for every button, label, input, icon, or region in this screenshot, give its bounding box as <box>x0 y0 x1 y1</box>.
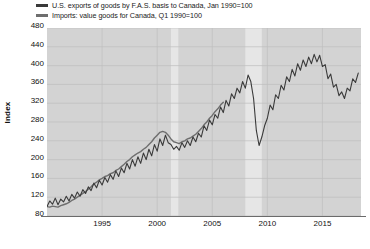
x-axis-line <box>41 216 366 217</box>
plot-area <box>47 28 361 216</box>
y-tick-label: 120 <box>14 191 44 199</box>
x-tick-label: 2005 <box>203 219 221 229</box>
legend-item-exports: U.S. exports of goods by F.A.S. basis to… <box>36 1 366 10</box>
legend-label-exports: U.S. exports of goods by F.A.S. basis to… <box>52 1 253 10</box>
y-axis-title: Index <box>3 93 12 133</box>
y-tick-label: 320 <box>14 97 44 105</box>
y-tick-label: 400 <box>14 60 44 68</box>
series-line-exports <box>47 54 358 206</box>
legend-swatch-exports <box>36 4 48 7</box>
y-tick-label: 160 <box>14 172 44 180</box>
series-line-imports <box>47 102 223 207</box>
legend-item-imports: Imports: value goods for Canada, Q1 1990… <box>36 11 366 20</box>
chart-legend: U.S. exports of goods by F.A.S. basis to… <box>36 1 366 23</box>
x-tick-label: 2000 <box>148 219 166 229</box>
plot-canvas <box>47 28 361 216</box>
y-tick-label: 280 <box>14 116 44 124</box>
y-tick-label: 240 <box>14 135 44 143</box>
legend-label-imports: Imports: value goods for Canada, Q1 1990… <box>52 11 202 20</box>
x-tick-label: 2015 <box>314 219 332 229</box>
y-axis-tick-labels: 80120160200240280320360400440480 <box>14 26 44 216</box>
y-tick-label: 360 <box>14 78 44 86</box>
y-tick-label: 440 <box>14 41 44 49</box>
chart-figure: U.S. exports of goods by F.A.S. basis to… <box>0 0 370 249</box>
x-tick-label: 2010 <box>258 219 276 229</box>
legend-swatch-imports <box>36 14 48 17</box>
y-tick-label: 200 <box>14 154 44 162</box>
x-axis-tick-labels: 19952000200520102015 <box>47 219 361 233</box>
y-tick-label: 80 <box>14 210 44 218</box>
y-tick-label: 480 <box>14 22 44 30</box>
x-tick-label: 1995 <box>93 219 111 229</box>
